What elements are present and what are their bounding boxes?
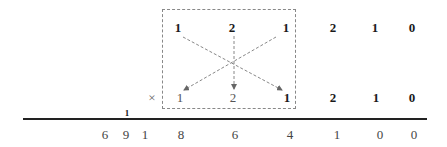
multiplicand-digit: 1 [283,21,290,34]
result-digit: 0 [411,128,418,141]
result-digit: 6 [102,128,109,141]
multiplier-digit: 1 [177,91,184,104]
result-digit: 8 [178,128,185,141]
result-digit: 0 [377,128,384,141]
multiplicand-digit: 1 [175,21,182,34]
sum-rule [23,118,427,120]
multiplier-digit: 1 [373,91,380,104]
multiplier-digit: 1 [284,91,291,104]
multiplicand-digit: 1 [372,21,379,34]
multiplier-digit: 0 [409,91,416,104]
multiplicand-digit: 0 [409,21,416,34]
multiply-sign: × [148,91,155,104]
multiplicand-digit: 2 [330,21,337,34]
multiplier-digit: 2 [330,91,337,104]
result-digit: 6 [232,128,239,141]
multiplier-digit: 2 [230,91,237,104]
result-digit: 4 [287,128,294,141]
result-digit: 9 [123,128,130,141]
result-digit: 1 [334,128,341,141]
result-digit: 1 [142,128,149,141]
multiplicand-digit: 2 [229,21,236,34]
carry-digit: 1 [125,109,130,118]
cross-arrows [0,0,447,147]
